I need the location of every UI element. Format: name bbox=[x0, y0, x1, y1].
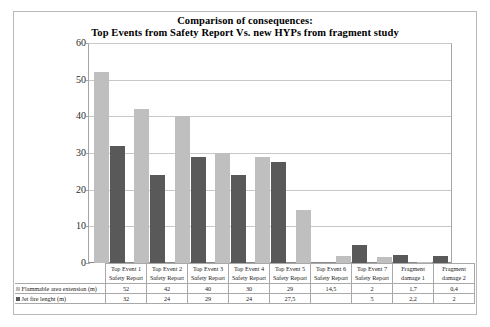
plot-area bbox=[88, 43, 452, 263]
table-column-header: Top Event 1Safety Report bbox=[106, 264, 147, 284]
table-cell-value: 24 bbox=[229, 294, 270, 304]
table-column-header: Top Event 3Safety Report bbox=[188, 264, 229, 284]
bar bbox=[336, 256, 351, 263]
bar bbox=[255, 157, 270, 263]
table-row: Flammable area extension (m)524240302914… bbox=[15, 284, 475, 294]
bar bbox=[175, 116, 190, 263]
bar-group bbox=[210, 44, 250, 263]
table-cell-value: 29 bbox=[188, 294, 229, 304]
bar bbox=[191, 157, 206, 263]
bar bbox=[271, 162, 286, 263]
table-cell-value: 2 bbox=[352, 284, 393, 294]
bar-group bbox=[372, 44, 412, 263]
y-axis-tick-label: 50 bbox=[60, 75, 86, 85]
chart-container: Comparison of consequences: Top Events f… bbox=[13, 11, 477, 315]
chart-title: Comparison of consequences: Top Events f… bbox=[14, 15, 476, 39]
bar bbox=[352, 245, 367, 263]
y-axis-tick-label: 20 bbox=[60, 185, 86, 195]
table-cell-value: 0,4 bbox=[434, 284, 475, 294]
table-column-header: Top Event 4Safety Report bbox=[229, 264, 270, 284]
bar bbox=[134, 109, 149, 263]
bar-group bbox=[251, 44, 291, 263]
y-axis-tick-label: 30 bbox=[60, 148, 86, 158]
bar-group bbox=[89, 44, 129, 263]
table-row: Jet fire lenght (m)3224292427,552,22 bbox=[15, 294, 475, 304]
bar bbox=[296, 210, 311, 263]
table-cell-value: 24 bbox=[147, 294, 188, 304]
table-cell-value: 40 bbox=[188, 284, 229, 294]
y-axis-tick-label: 60 bbox=[60, 38, 86, 48]
legend-swatch-icon bbox=[16, 297, 20, 301]
table-cell-value: 27,5 bbox=[270, 294, 311, 304]
table-cell-value: 29 bbox=[270, 284, 311, 294]
table-cell-value: 42 bbox=[147, 284, 188, 294]
table-cell-value: 52 bbox=[106, 284, 147, 294]
bar bbox=[433, 256, 448, 263]
table-corner-cell bbox=[15, 264, 106, 284]
bar bbox=[110, 146, 125, 263]
y-axis-tick-label: 40 bbox=[60, 111, 86, 121]
bar-group bbox=[170, 44, 210, 263]
table-cell-value: 14,5 bbox=[311, 284, 352, 294]
table-column-header: Top Event 6Safety Report bbox=[311, 264, 352, 284]
bar bbox=[94, 72, 109, 263]
legend-series-name: Flammable area extension (m) bbox=[22, 286, 97, 293]
table-column-header: Fragmentdamage 2 bbox=[434, 264, 475, 284]
y-axis: 0102030405060 bbox=[54, 43, 86, 263]
data-table: Top Event 1Safety ReportTop Event 2Safet… bbox=[15, 263, 475, 304]
bar-group bbox=[332, 44, 372, 263]
table-column-header: Fragmentdamage 1 bbox=[393, 264, 434, 284]
legend-row-label: Flammable area extension (m) bbox=[15, 284, 106, 294]
table-cell-value: 1,7 bbox=[393, 284, 434, 294]
bar-group bbox=[413, 44, 453, 263]
y-axis-tick-label: 10 bbox=[60, 221, 86, 231]
bar bbox=[215, 153, 230, 263]
bar bbox=[231, 175, 246, 263]
table-column-header: Top Event 2Safety Report bbox=[147, 264, 188, 284]
table-cell-value: 5 bbox=[352, 294, 393, 304]
legend-swatch-icon bbox=[16, 287, 20, 291]
table-cell-value: 30 bbox=[229, 284, 270, 294]
bar-group bbox=[291, 44, 331, 263]
legend-row-label: Jet fire lenght (m) bbox=[15, 294, 106, 304]
table-cell-value: 32 bbox=[106, 294, 147, 304]
bar-group bbox=[129, 44, 169, 263]
legend-series-name: Jet fire lenght (m) bbox=[22, 296, 67, 303]
table-cell-value: 2,2 bbox=[393, 294, 434, 304]
bar bbox=[393, 255, 408, 263]
bar bbox=[150, 175, 165, 263]
table-cell-value: 2 bbox=[434, 294, 475, 304]
table-cell-value bbox=[311, 294, 352, 304]
table-column-header: Top Event 7Safety Report bbox=[352, 264, 393, 284]
table-column-header: Top Event 5Safety Report bbox=[270, 264, 311, 284]
table-header-row: Top Event 1Safety ReportTop Event 2Safet… bbox=[15, 264, 475, 284]
chart-title-line-1: Comparison of consequences: bbox=[14, 15, 476, 27]
